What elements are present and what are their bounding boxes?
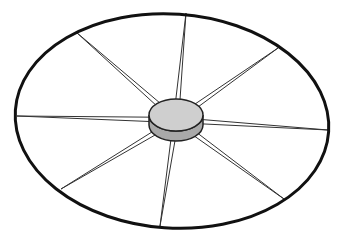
- hub-top: [149, 99, 203, 131]
- diagram-canvas: [0, 0, 344, 239]
- wheel-diagram: [0, 0, 344, 239]
- hub: [149, 99, 203, 141]
